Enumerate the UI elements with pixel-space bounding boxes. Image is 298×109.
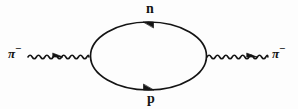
label-incoming-pion: π− xyxy=(8,47,21,60)
label-outgoing-pion: π− xyxy=(272,47,285,60)
label-proton: p xyxy=(147,92,155,106)
arrowhead-neutron-line xyxy=(144,22,154,28)
nucleon-loop xyxy=(91,22,207,90)
label-neutron: n xyxy=(146,2,154,16)
feynman-diagram-figure: n p π− π− xyxy=(0,0,298,109)
pion-propagator-out xyxy=(207,55,268,59)
pi-charge-in: − xyxy=(15,42,21,54)
arrowhead-outgoing-meson xyxy=(247,53,257,57)
pi-charge-out: − xyxy=(279,42,285,54)
arrowhead-proton-line xyxy=(144,84,154,90)
arrowhead-incoming-meson xyxy=(53,53,63,57)
diagram-lines xyxy=(28,22,268,90)
